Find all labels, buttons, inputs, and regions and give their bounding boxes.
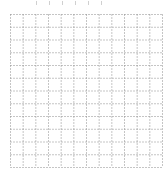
dotted-grid <box>0 0 166 172</box>
